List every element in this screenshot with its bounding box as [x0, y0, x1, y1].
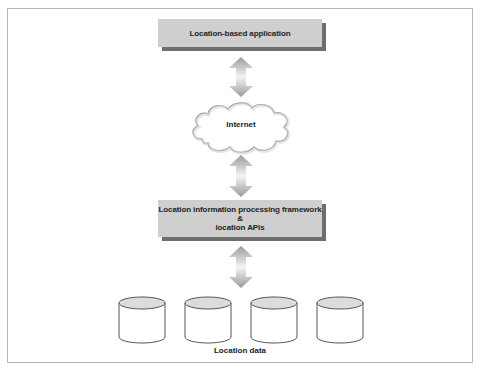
location-based-application-label: Location-based application [190, 29, 291, 38]
bidirectional-arrow-icon [229, 246, 253, 288]
database-cylinder-icon [118, 296, 166, 344]
bidirectional-arrow-icon [229, 155, 253, 197]
framework-label-line3: location APIs [215, 223, 264, 232]
database-cylinder-icon [250, 296, 298, 344]
location-based-application-box: Location-based application [158, 19, 322, 47]
framework-label-line1: Location information processing framewor… [158, 205, 321, 214]
location-data-caption: Location data [180, 346, 300, 355]
framework-label-line2: & [237, 214, 243, 223]
database-cylinder-icon [184, 296, 232, 344]
database-cylinder-icon [316, 296, 364, 344]
processing-framework-box: Location information processing framewor… [158, 200, 322, 237]
internet-label: Internet [188, 120, 294, 129]
bidirectional-arrow-icon [229, 57, 253, 97]
